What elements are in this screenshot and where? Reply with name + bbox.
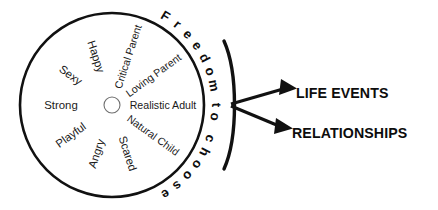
outcome-labels: LIFE EVENTSRELATIONSHIPS [292,85,407,141]
freedom-to-choose-diagram: Realistic AdultNatural ChildScaredAngryP… [0,0,438,210]
wheel-hub-icon [104,97,120,113]
arc-title-character: o [202,65,219,77]
wheel-sector-label-strong: Strong [44,99,78,111]
arc-title-character: e [159,186,173,203]
outcome-label-relationships: RELATIONSHIPS [292,125,407,141]
outcome-label-life-events: LIFE EVENTS [296,85,389,101]
arc-title-character: o [207,112,223,122]
arc-title-character: c [202,133,219,145]
arc-title-character: t [209,103,224,108]
arc-title-character: h [196,145,213,159]
outcome-arrows [231,79,297,134]
wheel-sector-label-realistic-adult: Realistic Adult [130,99,197,111]
diagram-canvas: Realistic AdultNatural ChildScaredAngryP… [0,0,438,210]
arc-title-character: e [180,26,196,42]
arrow-line-life-events [231,89,283,104]
arrow-head-life-events [279,79,297,95]
arc-title-character: o [180,168,196,184]
arc-title-character: d [196,51,213,65]
arrow-line-relationships [231,106,279,126]
arc-title-character: e [189,38,206,53]
arrow-head-relationships [274,118,293,134]
arc-title-character: r [171,17,184,32]
arc-title-character: F [158,7,173,24]
arc-title-character: s [170,178,185,194]
arc-title-character: m [206,78,223,92]
arc-title-character: o [189,157,206,172]
